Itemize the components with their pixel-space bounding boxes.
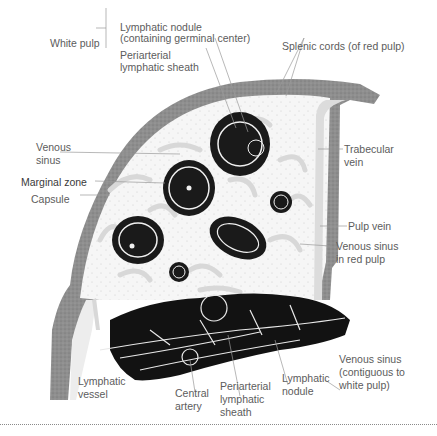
label-venous-sinus-red-pulp-2: in red pulp [336, 253, 385, 265]
label-trabecular-vein: Trabecular [344, 143, 394, 155]
label-pals-bottom: Periarterial [220, 380, 271, 392]
label-lymphatic-nodule-bottom: Lymphatic [282, 372, 329, 384]
label-splenic-cords: Splenic cords (of red pulp) [282, 40, 405, 52]
label-marginal-zone: Marginal zone [21, 176, 87, 188]
label-venous-sinus-contiguous-2: (contiguous to [339, 366, 405, 378]
label-venous-sinus-red-pulp: Venous sinus [336, 240, 398, 252]
label-venous-sinus: Venous [36, 141, 71, 153]
periarterial-sheath-band [110, 293, 350, 380]
label-capsule: Capsule [31, 193, 70, 205]
label-lymphatic-vessel: Lymphatic [78, 375, 125, 387]
label-white-pulp: White pulp [50, 37, 100, 49]
label-venous-sinus-contiguous: Venous sinus [339, 353, 401, 365]
label-trabecular-vein-2: vein [344, 156, 363, 168]
label-venous-sinus-contiguous-3: white pulp) [339, 379, 390, 391]
label-lymphatic-nodule-top-2: (containing germinal center) [120, 32, 250, 44]
label-pals-top: Periarterial [120, 49, 171, 61]
label-central-artery-2: artery [175, 400, 202, 412]
label-venous-sinus-2: sinus [36, 154, 61, 166]
label-lymphatic-nodule-bottom-2: nodule [282, 385, 314, 397]
label-pals-top-2: lymphatic sheath [120, 61, 199, 73]
label-pulp-vein: Pulp vein [348, 220, 391, 232]
bottom-dotted-rule [0, 424, 437, 425]
label-pals-bottom-3: sheath [220, 406, 252, 418]
label-pals-bottom-2: lymphatic [220, 393, 264, 405]
label-lymphatic-vessel-2: vessel [78, 388, 108, 400]
label-central-artery: Central [175, 387, 209, 399]
